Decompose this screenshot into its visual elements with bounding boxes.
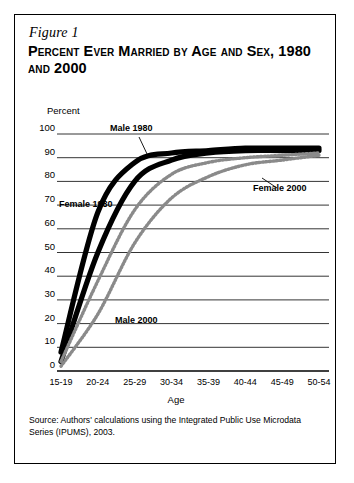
y-tick-50: 50 [29,242,55,252]
y-tick-90: 90 [29,147,55,157]
source-note: Source: Authors' calculations using the … [29,415,323,438]
y-tick-20: 20 [29,313,55,323]
x-axis-title: Age [15,394,337,405]
series-lines [61,148,319,366]
x-tick-35-39: 35-39 [191,377,225,387]
y-tick-60: 60 [29,218,55,228]
x-tick-25-29: 25-29 [118,377,152,387]
series-label-female-2000: Female 2000 [253,183,307,193]
x-tick-45-49: 45-49 [265,377,299,387]
x-tick-40-44: 40-44 [228,377,262,387]
series-label-male-1980: Male 1980 [110,123,153,133]
y-tick-40: 40 [29,265,55,275]
x-tick-30-34: 30-34 [155,377,189,387]
y-tick-80: 80 [29,170,55,180]
x-tick-20-24: 20-24 [81,377,115,387]
y-tick-30: 30 [29,289,55,299]
x-tick-15-19: 15-19 [44,377,78,387]
x-tick-50-54: 50-54 [302,377,336,387]
y-tick-100: 100 [29,123,55,133]
series-label-female-1980: Female 1980 [59,199,113,209]
y-tick-10: 10 [29,336,55,346]
series-label-male-2000: Male 2000 [115,315,158,325]
y-tick-0: 0 [29,360,55,370]
y-tick-70: 70 [29,194,55,204]
figure-card: Figure 1 Percent Ever Married by Age and… [14,14,336,464]
